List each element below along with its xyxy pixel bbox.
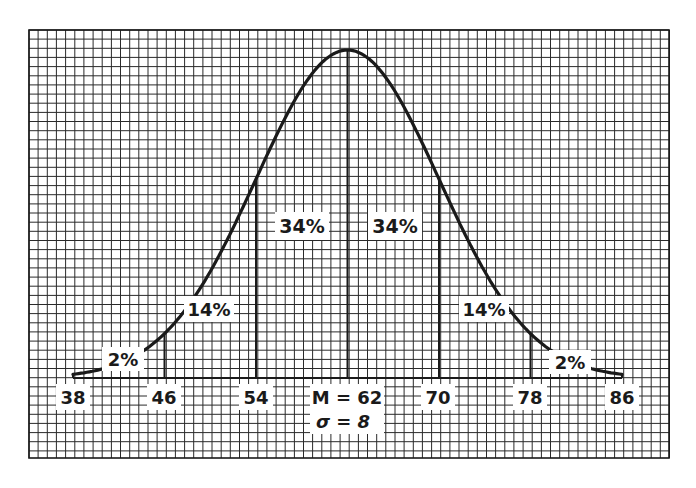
- tick-label-46: 46: [151, 387, 176, 408]
- tick-label-70: 70: [425, 387, 450, 408]
- tick-label-mean: M = 62: [312, 387, 383, 408]
- segment-label-38-46: 2%: [108, 349, 139, 370]
- tick-label-86: 86: [609, 387, 634, 408]
- segment-label-62-70: 34%: [372, 215, 417, 237]
- tick-label-54: 54: [243, 387, 268, 408]
- segment-label-70-78: 14%: [462, 299, 505, 320]
- tick-label-38: 38: [60, 387, 85, 408]
- sigma-label: σ = 8: [316, 411, 370, 432]
- tick-label-78: 78: [517, 387, 542, 408]
- segment-label-78-86: 2%: [555, 352, 586, 373]
- normal-distribution-chart: 2% 14% 34% 34% 14% 2% 38 46 54 M = 62 σ …: [0, 0, 696, 488]
- segment-label-54-62: 34%: [279, 215, 324, 237]
- segment-label-46-54: 14%: [187, 299, 230, 320]
